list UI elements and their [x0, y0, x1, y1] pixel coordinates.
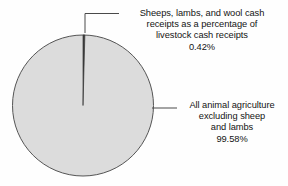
- callout-other-percent: 99.58%: [178, 134, 286, 145]
- callout-sheep-line-2: receipts as a percentage of: [118, 19, 286, 30]
- callout-sheep-line-1: Sheeps, lambs, and wool cash: [118, 8, 286, 19]
- pie-chart-figure: Sheeps, lambs, and wool cash receipts as…: [0, 0, 288, 186]
- callout-label-sheep-lambs-wool: Sheeps, lambs, and wool cash receipts as…: [118, 8, 286, 53]
- callout-other-line-1: All animal agriculture: [178, 100, 286, 111]
- leader-line-sheep-callout: [85, 14, 119, 34]
- callout-label-all-animal-agriculture: All animal agriculture excluding sheep a…: [178, 100, 286, 145]
- callout-sheep-line-3: livestock cash receipts: [118, 30, 286, 41]
- callout-other-line-3: and lambs: [178, 122, 286, 133]
- callout-sheep-percent: 0.42%: [118, 42, 286, 53]
- callout-other-line-2: excluding sheep: [178, 111, 286, 122]
